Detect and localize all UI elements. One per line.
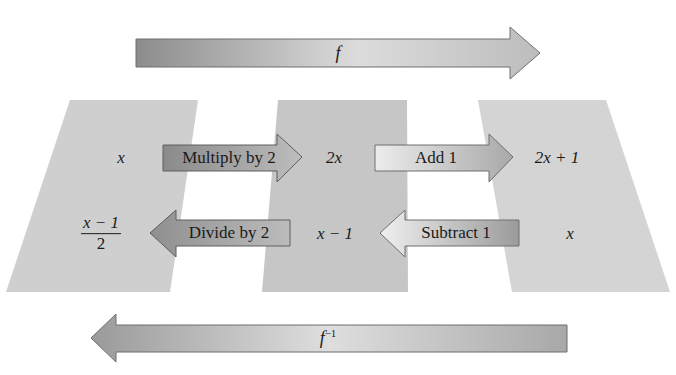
fraction-numerator: x − 1 <box>81 214 121 234</box>
value-2x-plus-1: 2x + 1 <box>535 148 580 167</box>
value-2x: 2x <box>326 148 342 167</box>
f-label: f <box>335 43 340 63</box>
panel-right-top-value: 2x + 1 <box>535 148 580 168</box>
f-inverse-exponent: −1 <box>325 327 337 339</box>
panel-middle-bottom-value: x − 1 <box>317 224 353 244</box>
panel-middle <box>262 100 408 292</box>
fraction-denominator: 2 <box>97 234 106 253</box>
panel-right <box>478 100 670 292</box>
top-arrow-label: f <box>335 43 340 64</box>
value-x-minus-1: x − 1 <box>317 224 353 243</box>
panel-middle-top-value: 2x <box>326 148 342 168</box>
step-subtract-label: Subtract 1 <box>421 223 490 243</box>
fraction: x − 1 2 <box>81 214 121 253</box>
panel-left <box>6 100 198 292</box>
bottom-arrow-label: f−1 <box>320 327 337 349</box>
panel-right-bottom-value: x <box>566 224 574 244</box>
panel-left-top-value: x <box>117 148 125 168</box>
step-add-label: Add 1 <box>415 148 457 168</box>
value-x: x <box>117 148 125 167</box>
step-divide-label: Divide by 2 <box>189 223 269 243</box>
panel-left-bottom-value: x − 1 2 <box>81 213 121 253</box>
value-x: x <box>566 224 574 243</box>
step-multiply-label: Multiply by 2 <box>182 148 276 168</box>
